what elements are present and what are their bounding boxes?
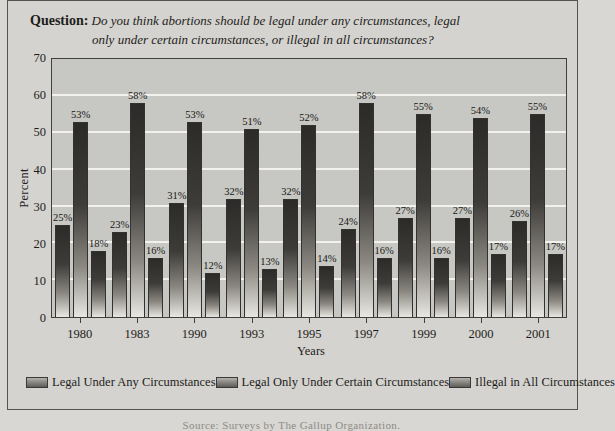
- legend-swatch-icon: [26, 377, 48, 388]
- x-axis-cell: 1997: [338, 318, 395, 342]
- bar-value-label: 17%: [489, 241, 508, 252]
- legend-item-legal-any: Legal Under Any Circumstances: [26, 375, 216, 390]
- bar: 51%: [244, 129, 259, 317]
- x-tick-mark: [194, 318, 195, 323]
- bar-value-label: 32%: [224, 186, 243, 197]
- bar-value-label: 31%: [167, 190, 186, 201]
- y-tick-label: 20: [34, 236, 47, 251]
- bar-group-1999: 27%55%16%: [395, 59, 452, 317]
- bar-value-label: 18%: [89, 238, 108, 249]
- question-line1: Question: Do you think abortions should …: [30, 11, 557, 31]
- bar-value-label: 27%: [453, 205, 472, 216]
- bar: 17%: [491, 254, 506, 317]
- x-tick-mark: [481, 318, 482, 323]
- x-tick-mark: [137, 318, 138, 323]
- x-axis-cell: 2000: [452, 318, 509, 342]
- bar: 16%: [148, 258, 163, 317]
- bar-value-label: 53%: [185, 109, 204, 120]
- bar: 54%: [473, 118, 488, 317]
- legend-label: Illegal in All Circumstances: [475, 375, 615, 390]
- x-axis-cell: 1980: [51, 318, 108, 342]
- bar-group-2000: 27%54%17%: [452, 59, 509, 317]
- bar: 32%: [226, 199, 241, 317]
- question-block: Question: Do you think abortions should …: [14, 7, 571, 52]
- x-axis: 198019831990199319951997199920002001: [51, 318, 567, 342]
- bar: 52%: [301, 125, 316, 317]
- bar-value-label: 16%: [146, 245, 165, 256]
- x-tick-mark: [80, 318, 81, 323]
- x-tick-mark: [538, 318, 539, 323]
- bar: 18%: [91, 251, 106, 317]
- bar: 58%: [359, 103, 374, 317]
- bar: 53%: [187, 122, 202, 317]
- x-tick-mark: [424, 318, 425, 323]
- x-tick-label: 1997: [354, 327, 379, 341]
- x-tick-label: 2001: [526, 327, 551, 341]
- bar-value-label: 52%: [299, 112, 318, 123]
- bar-value-label: 27%: [396, 205, 415, 216]
- bar-group-1997: 24%58%16%: [338, 59, 395, 317]
- bar-chart: Percent 010203040506070 25%53%18%23%58%1…: [14, 58, 571, 318]
- bar-value-label: 24%: [338, 216, 357, 227]
- x-tick-mark: [309, 318, 310, 323]
- x-tick-label: 1993: [239, 327, 264, 341]
- bar: 58%: [130, 103, 145, 317]
- bar-value-label: 55%: [528, 101, 547, 112]
- bar-value-label: 26%: [510, 208, 529, 219]
- legend-label: Legal Only Under Certain Circumstances: [242, 375, 450, 390]
- bar: 32%: [283, 199, 298, 317]
- bar: 23%: [112, 232, 127, 317]
- bar: 27%: [455, 218, 470, 318]
- bar: 17%: [548, 254, 563, 317]
- x-axis-title: Years: [51, 344, 571, 359]
- bar: 55%: [530, 114, 545, 317]
- x-tick-mark: [252, 318, 253, 323]
- x-tick-label: 1983: [124, 327, 149, 341]
- bar-value-label: 17%: [546, 241, 565, 252]
- x-tick-label: 1980: [67, 327, 92, 341]
- x-axis-cell: 2001: [510, 318, 567, 342]
- bar-group-2001: 26%55%17%: [509, 59, 566, 317]
- clipped-source-caption: Source: Surveys by The Gallup Organizati…: [0, 419, 583, 425]
- y-tick-label: 30: [34, 199, 47, 214]
- figure-frame: Question: Do you think abortions should …: [7, 0, 578, 410]
- bar-group-1995: 32%52%14%: [280, 59, 337, 317]
- bar-value-label: 51%: [242, 116, 261, 127]
- bar-value-label: 25%: [53, 212, 72, 223]
- bar: 24%: [341, 229, 356, 317]
- bar-value-label: 13%: [260, 256, 279, 267]
- bar: 16%: [434, 258, 449, 317]
- x-axis-cell: 1993: [223, 318, 280, 342]
- legend-swatch-icon: [449, 377, 471, 388]
- y-tick-label: 0: [40, 311, 46, 326]
- bar: 27%: [398, 218, 413, 318]
- bar-value-label: 23%: [110, 219, 129, 230]
- bar-value-label: 58%: [128, 90, 147, 101]
- y-tick-label: 60: [34, 88, 47, 103]
- legend-swatch-icon: [216, 377, 238, 388]
- x-tick-label: 1990: [182, 327, 207, 341]
- x-axis-cell: 1983: [108, 318, 165, 342]
- bar-group-1983: 23%58%16%: [109, 59, 166, 317]
- bar-group-1993: 32%51%13%: [223, 59, 280, 317]
- x-axis-cell: 1995: [280, 318, 337, 342]
- x-axis-cell: 1990: [166, 318, 223, 342]
- legend-item-legal-certain: Legal Only Under Certain Circumstances: [216, 375, 450, 390]
- bar: 14%: [319, 266, 334, 318]
- bar: 16%: [377, 258, 392, 317]
- bar-value-label: 12%: [203, 260, 222, 271]
- bar: 13%: [262, 269, 277, 317]
- legend-item-illegal-all: Illegal in All Circumstances: [449, 375, 615, 390]
- bar-value-label: 58%: [356, 90, 375, 101]
- bar: 12%: [205, 273, 220, 317]
- question-prefix: Question:: [30, 13, 88, 28]
- bar-value-label: 16%: [432, 245, 451, 256]
- y-tick-label: 40: [34, 162, 47, 177]
- bar-value-label: 53%: [71, 109, 90, 120]
- x-tick-label: 2000: [468, 327, 493, 341]
- legend: Legal Under Any Circumstances Legal Only…: [14, 375, 571, 390]
- legend-label: Legal Under Any Circumstances: [52, 375, 216, 390]
- y-tick-label: 10: [34, 273, 47, 288]
- bar-value-label: 54%: [471, 105, 490, 116]
- bar-value-label: 32%: [281, 186, 300, 197]
